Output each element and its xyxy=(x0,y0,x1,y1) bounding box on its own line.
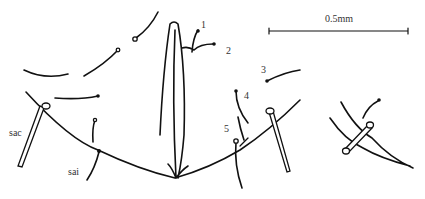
inset-sensillus-socket xyxy=(367,122,374,128)
inset-outline xyxy=(330,102,413,168)
sensillus-sac: sac xyxy=(9,103,50,167)
central-projection xyxy=(160,22,188,178)
seta-3 xyxy=(267,70,300,81)
seta-upper-left-b xyxy=(84,50,118,76)
seta-upper-left-a xyxy=(136,12,158,38)
seta-5-socket xyxy=(234,139,238,143)
sac-shaft xyxy=(18,106,44,167)
label-seta-1: 1 xyxy=(201,19,206,30)
inset-detail xyxy=(330,98,413,168)
sensillus-right xyxy=(266,108,290,172)
label-seta-5: 5 xyxy=(224,123,229,134)
seta-left-e xyxy=(93,120,95,142)
scale-bar-label: 0.5mm xyxy=(325,13,353,24)
seta-socket xyxy=(116,48,120,52)
sensillus-right-socket xyxy=(266,108,274,114)
inset-seta xyxy=(363,101,378,118)
seta-1-2 xyxy=(182,30,213,52)
seta-socket xyxy=(133,37,137,41)
seta-sai: sai xyxy=(68,149,101,180)
seta-3-socket xyxy=(265,79,269,83)
seta-left-c xyxy=(24,70,68,76)
seta-1-socket xyxy=(196,29,200,33)
scale-bar: 0.5mm xyxy=(269,13,408,34)
label-seta-3: 3 xyxy=(261,64,266,75)
inset-seta-socket xyxy=(377,98,381,102)
label-seta-2: 2 xyxy=(226,45,231,56)
label-seta-4: 4 xyxy=(244,90,249,101)
morphology-drawing: 0.5mm sac sai 1 2 3 4 5 xyxy=(0,0,425,199)
sai-seta xyxy=(87,152,99,180)
scale-bar-line xyxy=(269,28,408,34)
seta-2-socket xyxy=(212,42,216,46)
label-sai: sai xyxy=(68,166,79,177)
seta-left-d xyxy=(55,96,98,99)
inset-sensillus-tip xyxy=(343,148,350,154)
seta-4-socket xyxy=(234,89,238,93)
label-sac: sac xyxy=(9,127,22,138)
seta-socket xyxy=(93,118,96,121)
seta-socket xyxy=(96,94,100,98)
sac-socket xyxy=(42,103,50,109)
